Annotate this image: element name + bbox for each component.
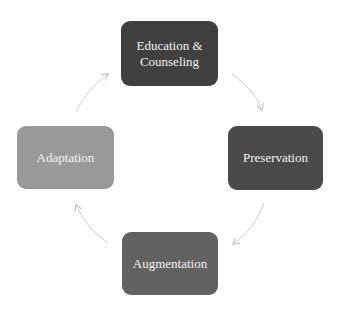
arrow-top-to-right [232,74,262,110]
arrow-bottom-to-left [76,205,108,243]
node-label: Augmentation [133,256,207,272]
cycle-diagram: Education & Counseling Preservation Augm… [0,0,340,309]
node-label: Education & Counseling [136,38,202,70]
node-label: Preservation [243,150,308,166]
node-adaptation: Adaptation [17,126,114,189]
node-augmentation: Augmentation [122,232,218,295]
arrow-left-to-top [76,74,108,112]
node-preservation: Preservation [228,126,323,190]
arrow-right-to-bottom [233,203,264,244]
node-education-counseling: Education & Counseling [121,21,218,86]
node-label: Adaptation [37,150,95,166]
